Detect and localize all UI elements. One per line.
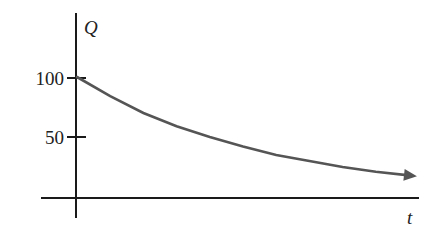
y-tick-label-50: 50 <box>45 127 64 148</box>
x-axis-label: t <box>407 207 413 228</box>
decay-curve <box>77 77 409 175</box>
y-tick-label-100: 100 <box>36 68 65 89</box>
decay-chart: 100 50 Q t <box>0 0 433 242</box>
arrowhead-icon <box>403 169 417 181</box>
y-axis-label: Q <box>84 17 98 38</box>
